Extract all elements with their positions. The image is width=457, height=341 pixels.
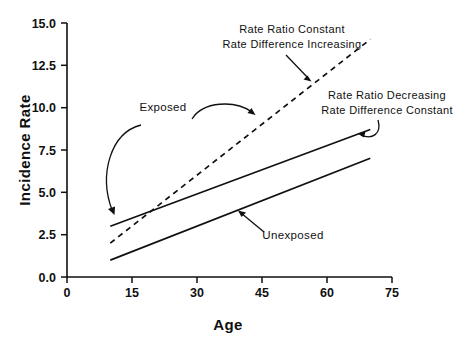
y-tick-label-4: 10.0 bbox=[32, 101, 56, 115]
x-tick-label-3: 45 bbox=[255, 286, 269, 300]
x-tick-label-1: 15 bbox=[125, 286, 139, 300]
y-tick-label-5: 12.5 bbox=[32, 59, 56, 73]
annotation-rate-ratio-constant-line2: Rate Difference Increasing bbox=[222, 38, 361, 50]
x-axis-title: Age bbox=[213, 316, 243, 333]
x-tick-label-0: 0 bbox=[64, 286, 71, 300]
series-label-exposed: Exposed bbox=[139, 101, 186, 113]
y-axis-title: Incidence Rate bbox=[16, 94, 33, 205]
series-label-unexposed: Unexposed bbox=[262, 229, 323, 241]
y-tick-label-3: 7.5 bbox=[39, 144, 56, 158]
incidence-rate-by-age-chart: 0.0 2.5 5.0 7.5 10.0 12.5 15.0 0 15 30 4… bbox=[0, 0, 457, 341]
x-tick-label-2: 30 bbox=[190, 286, 204, 300]
y-tick-label-0: 0.0 bbox=[39, 271, 56, 285]
y-tick-label-2: 5.0 bbox=[39, 186, 56, 200]
y-tick-label-6: 15.0 bbox=[32, 17, 56, 31]
y-tick-label-1: 2.5 bbox=[39, 228, 56, 242]
x-tick-label-5: 75 bbox=[385, 286, 399, 300]
annotation-rate-ratio-decreasing-line2: Rate Difference Constant bbox=[321, 104, 453, 116]
annotation-rate-ratio-constant-line1: Rate Ratio Constant bbox=[239, 23, 345, 35]
annotation-rate-ratio-decreasing-line1: Rate Ratio Decreasing bbox=[328, 89, 446, 101]
x-tick-label-4: 60 bbox=[320, 286, 334, 300]
